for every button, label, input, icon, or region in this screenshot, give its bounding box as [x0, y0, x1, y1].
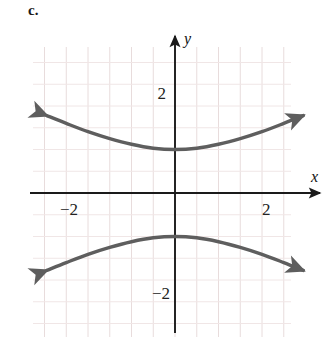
y-axis-label: y [182, 30, 192, 48]
x-axis-tick-label-minus-2: −2 [60, 200, 78, 219]
y-axis-tick-label-2: 2 [158, 84, 167, 103]
plot-svg: 2 −2 −2 2 y x [0, 0, 336, 343]
x-axis-label: x [310, 168, 318, 185]
hyperbola-figure: 2 −2 −2 2 y x [0, 0, 336, 343]
x-axis-tick-label-2: 2 [262, 200, 271, 219]
axes [30, 36, 320, 333]
axis-names: y x [182, 30, 318, 185]
y-axis-tick-label-minus-2: −2 [152, 284, 170, 303]
